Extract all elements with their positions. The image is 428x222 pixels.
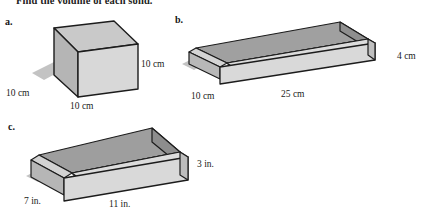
figure-a-label: a. — [5, 16, 13, 27]
figure-c-width-label: 7 in. — [24, 196, 41, 206]
figure-a-depth-label: 10 cm — [6, 88, 29, 98]
box-c-right-outer-wall — [180, 152, 188, 180]
figure-c-label: c. — [8, 121, 15, 132]
figure-b-height-label: 4 cm — [397, 51, 416, 61]
figure-c-height-label: 3 in. — [197, 159, 214, 169]
instruction-text: Find the volume of each solid. — [16, 0, 153, 6]
worksheet-figure-page: Find the volume of each solid. a. 10 cm … — [0, 0, 428, 222]
figure-a-height-label: 10 cm — [141, 59, 164, 69]
figure-a-width-label: 10 cm — [70, 101, 93, 111]
figure-b-length-label: 25 cm — [281, 89, 304, 99]
figure-b-width-label: 10 cm — [191, 91, 214, 101]
figure-a-cube — [26, 18, 146, 108]
figure-c-length-label: 11 in. — [109, 199, 130, 209]
cube-front-face — [78, 44, 138, 97]
